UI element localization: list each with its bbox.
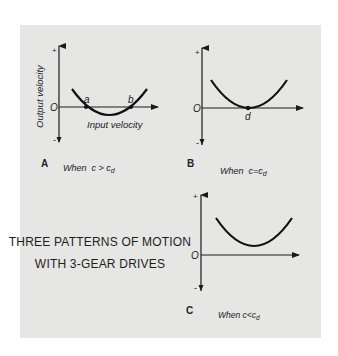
panel-a-y-axis-label: Output velocity (34, 64, 45, 128)
figure-title: THREE PATTERNS OF MOTION WITH 3-GEAR DRI… (9, 235, 191, 271)
panel-b-minus-label: - (196, 138, 199, 148)
panel-a-letter: A (41, 158, 48, 169)
panel-a: a b + - O Output velocity Input velocity… (34, 46, 158, 174)
panel-b-plus-label: + (195, 48, 200, 57)
panel-a-y-axis-down-arrow (57, 137, 62, 143)
panel-b-condition: When c=cd (220, 166, 268, 177)
panel-c-condition: When c<cd (218, 310, 260, 321)
panel-b-y-axis-down-arrow (200, 139, 205, 145)
panel-c-plus-label: + (193, 192, 198, 201)
panel-c-minus-label: - (194, 283, 197, 293)
panel-c-letter: C (186, 305, 193, 316)
panel-a-point-b-label: b (128, 94, 134, 105)
figure-canvas: a b + - O Output velocity Input velocity… (0, 0, 338, 356)
panel-b-condition-subscript: d (263, 170, 268, 177)
panel-a-condition-subscript: d (111, 167, 116, 174)
panel-a-point-b (129, 105, 133, 109)
panel-c-curve (216, 218, 292, 246)
title-line-2: WITH 3-GEAR DRIVES (35, 257, 165, 271)
panel-c-y-axis-down-arrow (199, 285, 204, 291)
panel-c: + - O C When c<cd (186, 192, 299, 321)
panel-a-plus-label: + (52, 46, 57, 55)
panel-a-point-a-label: a (84, 94, 90, 105)
panel-c-condition-subscript: d (256, 314, 260, 321)
panel-b-condition-text: When c=c (220, 166, 263, 176)
panel-b: d + - O B When c=cd (187, 48, 303, 177)
panel-c-condition-text: When c<c (218, 310, 257, 320)
panel-a-condition: When c > cd (63, 163, 116, 174)
panel-a-condition-text: When c > c (63, 163, 111, 173)
panel-a-minus-label: - (53, 135, 56, 145)
panel-b-letter: B (187, 158, 194, 169)
panel-a-origin-label: O (50, 102, 58, 113)
title-line-1: THREE PATTERNS OF MOTION (9, 235, 191, 249)
panel-a-point-a (84, 105, 88, 109)
panel-b-point-d-label: d (245, 111, 251, 122)
panel-a-x-axis-label: Input velocity (87, 119, 144, 130)
panel-b-point-d (246, 106, 250, 110)
panel-b-curve (211, 80, 287, 108)
panel-b-origin-label: O (193, 103, 201, 114)
panel-c-origin-label: O (191, 250, 199, 261)
